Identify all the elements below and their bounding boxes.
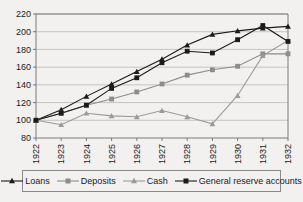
legend-item-cash: Cash xyxy=(123,176,168,186)
data-point-marker-square xyxy=(134,90,139,95)
y-axis-tick-label: 220 xyxy=(16,9,31,19)
data-series-markers xyxy=(33,23,291,127)
series-line xyxy=(36,26,288,121)
legend-item-loans: Loans xyxy=(1,176,50,186)
data-point-marker-square xyxy=(185,73,190,78)
series-line xyxy=(36,26,288,120)
data-point-marker-square xyxy=(109,86,114,91)
legend-label-deposits: Deposits xyxy=(81,177,116,186)
y-axis-tick-label: 120 xyxy=(16,98,31,108)
legend-marker-triangle-dark xyxy=(1,176,23,186)
x-axis-tick-label: 1922 xyxy=(31,144,41,164)
y-axis-tick-label: 160 xyxy=(16,62,31,72)
data-point-marker-square xyxy=(185,49,190,54)
data-point-marker-triangle xyxy=(134,69,140,74)
x-axis-tick-label: 1931 xyxy=(258,144,268,164)
x-axis-tick-label: 1932 xyxy=(283,144,293,164)
x-axis-tick-label: 1930 xyxy=(233,144,243,164)
data-point-marker-square xyxy=(260,23,265,28)
data-point-marker-square xyxy=(109,97,114,102)
x-axis-tick-label: 1923 xyxy=(56,144,66,164)
legend-marker-triangle-gray xyxy=(123,176,145,186)
data-point-marker-square xyxy=(235,37,240,42)
y-axis-tick-label: 140 xyxy=(16,80,31,90)
data-point-marker-square xyxy=(210,51,215,56)
legend-marker-square-dark xyxy=(175,176,197,186)
x-axis-tick-label: 1927 xyxy=(157,144,167,164)
data-point-marker-square xyxy=(235,64,240,69)
y-axis-tick-label: 200 xyxy=(16,27,31,37)
data-point-marker-square xyxy=(160,82,165,87)
chart-legend: Loans Deposits Cash General reserve acco… xyxy=(22,170,281,192)
x-axis-tick-label: 1929 xyxy=(208,144,218,164)
y-axis-tick-label: 180 xyxy=(16,45,31,55)
data-point-marker-square xyxy=(59,111,64,116)
legend-item-deposits: Deposits xyxy=(57,176,116,186)
x-axis-tick-label: 1928 xyxy=(182,144,192,164)
x-axis-tick-labels: 1922192319241925192619271928192919301931… xyxy=(31,144,293,164)
chart-container: 80100120140160180200220 1922192319241925… xyxy=(0,0,303,202)
y-axis-tick-labels: 80100120140160180200220 xyxy=(16,9,31,143)
legend-marker-square-gray xyxy=(57,176,79,186)
data-point-marker-square xyxy=(134,75,139,80)
legend-label-general-reserve-accounts: General reserve accounts xyxy=(199,177,302,186)
x-axis-tick-label: 1925 xyxy=(107,144,117,164)
data-point-marker-triangle xyxy=(109,81,115,86)
data-point-marker-triangle xyxy=(184,42,190,47)
data-point-marker-square xyxy=(286,39,291,44)
legend-label-cash: Cash xyxy=(147,177,168,186)
legend-label-loans: Loans xyxy=(25,177,50,186)
data-point-marker-square xyxy=(160,60,165,65)
data-point-marker-triangle xyxy=(235,93,241,98)
legend-item-general-reserve-accounts: General reserve accounts xyxy=(175,176,302,186)
data-point-marker-square xyxy=(84,103,89,108)
data-point-marker-square xyxy=(34,118,39,123)
y-axis-tick-label: 80 xyxy=(21,133,31,143)
x-axis-tick-label: 1924 xyxy=(82,144,92,164)
y-axis-tick-label: 100 xyxy=(16,115,31,125)
data-point-marker-square xyxy=(286,51,291,56)
x-axis-tick-label: 1926 xyxy=(132,144,142,164)
data-point-marker-triangle xyxy=(159,108,165,113)
data-point-marker-triangle xyxy=(84,94,90,99)
data-point-marker-square xyxy=(210,67,215,72)
